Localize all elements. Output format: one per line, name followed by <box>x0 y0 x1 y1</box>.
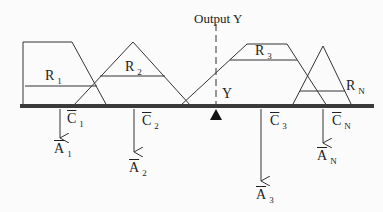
area-a3-label: A3 <box>256 188 274 202</box>
centroid-c3-label: C3 <box>270 114 287 128</box>
area-a2-label: A2 <box>129 161 147 175</box>
region-r3-shape <box>180 44 327 106</box>
region-r1-label: R1 <box>45 69 62 83</box>
diagram-graphics <box>0 0 383 212</box>
centroid-cn-label: CN <box>332 114 351 128</box>
region-r3-label: R3 <box>255 44 272 58</box>
area-a1-label: A1 <box>54 142 72 156</box>
balance-beam <box>20 104 374 108</box>
output-y-marker-label: Y <box>222 87 232 101</box>
centroid-defuzzification-diagram: Output Y Y R1 R2 R3 RN C1 C2 C3 CN A1 A2… <box>0 0 383 212</box>
output-y-title: Output Y <box>194 12 242 25</box>
centroid-c1-label: C1 <box>67 112 84 126</box>
region-rn-label: RN <box>346 79 365 93</box>
region-r2-shape <box>73 42 191 106</box>
centroid-c2-label: C2 <box>142 114 159 128</box>
region-r1-shape <box>23 42 107 106</box>
area-an-label: AN <box>317 149 337 163</box>
region-r2-label: R2 <box>125 60 142 74</box>
region-rn-shape <box>292 46 352 106</box>
fulcrum-triangle-icon <box>210 109 222 120</box>
